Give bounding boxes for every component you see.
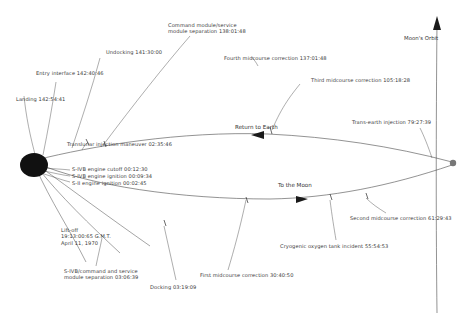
moon-orbit-arrow [433,16,441,30]
trajectory-diagram [0,0,468,313]
label-oxygen-tank-incident: Cryogenic oxygen tank incident 55:54:53 [280,243,388,249]
label-tli: Translunar injection maneuver 02:35:46 [67,141,172,147]
label-midcourse-2: Second midcourse correction 61:29:43 [350,215,452,221]
label-cm-sm-separation: Command module/service module separation… [168,22,246,35]
leader-midcourse-2 [366,198,386,213]
moon-body [450,160,456,166]
label-to-the-moon: To the Moon [278,182,312,188]
label-entry-interface: Entry interface 142:40:46 [36,70,104,76]
label-liftoff: Lift-off 19:13:00:65 G.M.T. April 11, 19… [61,227,111,246]
label-s4b-ignition: S-IVB engine ignition 00:09:34 [72,173,152,179]
direction-arrowheads [251,131,308,203]
leader-entry-interface [43,82,56,155]
leader-landing [24,96,36,158]
label-midcourse-3: Third midcourse correction 105:18:28 [311,77,410,83]
return-trajectory-path [36,134,452,162]
label-s4b-cutoff: S-IVB engine cutoff 00:12:30 [72,166,148,172]
label-midcourse-4: Fourth midcourse correction 137:01:48 [224,55,327,61]
moon-orbit-path [436,22,437,313]
label-midcourse-1: First midcourse correction 30:40:50 [200,272,294,278]
leader-trans-earth-injection [420,128,432,158]
label-return-to-earth: Return to Earth [235,124,278,130]
earth-body [20,153,48,177]
label-undocking: Undocking 141:30:00 [106,49,162,55]
label-landing: Landing 142:54:41 [16,96,65,102]
label-s4b-csm-separation: S-IVB/command and service module separat… [64,268,138,281]
label-trans-earth-injection: Trans-earth injection 79:27:39 [352,119,431,125]
leader-oxygen-tank-incident [330,200,336,240]
leader-midcourse-1 [228,200,246,270]
leader-s4b-cutoff [44,168,70,170]
leader-docking [164,226,176,280]
label-moon-orbit: Moon's Orbit [404,35,438,41]
label-docking: Docking 03:19:09 [150,284,196,290]
label-s2-ignition: S-II engine ignition 00:02:45 [72,180,147,186]
arrow-return-to-earth [251,131,264,139]
